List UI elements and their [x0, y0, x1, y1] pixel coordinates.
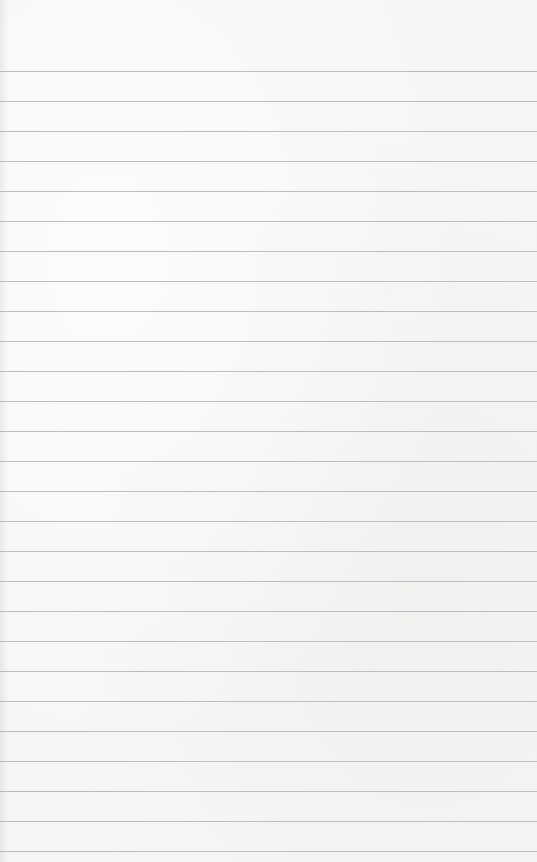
ruled-line	[0, 791, 537, 792]
ruled-line	[0, 221, 537, 222]
ruled-line	[0, 431, 537, 432]
ruled-line	[0, 581, 537, 582]
ruled-line	[0, 341, 537, 342]
ruled-line	[0, 191, 537, 192]
ruled-line	[0, 521, 537, 522]
ruled-line	[0, 611, 537, 612]
ruled-line	[0, 761, 537, 762]
ruled-line	[0, 251, 537, 252]
ruled-line	[0, 821, 537, 822]
ruled-line	[0, 101, 537, 102]
ruled-line	[0, 161, 537, 162]
ruled-line	[0, 461, 537, 462]
lined-paper	[0, 0, 537, 862]
ruled-line	[0, 551, 537, 552]
ruled-line	[0, 311, 537, 312]
ruled-line	[0, 731, 537, 732]
ruled-line	[0, 671, 537, 672]
ruled-line	[0, 491, 537, 492]
ruled-line	[0, 701, 537, 702]
ruled-line	[0, 131, 537, 132]
ruled-line	[0, 401, 537, 402]
ruled-line	[0, 371, 537, 372]
ruled-line	[0, 851, 537, 852]
ruled-line	[0, 281, 537, 282]
ruled-line	[0, 641, 537, 642]
ruled-line	[0, 71, 537, 72]
